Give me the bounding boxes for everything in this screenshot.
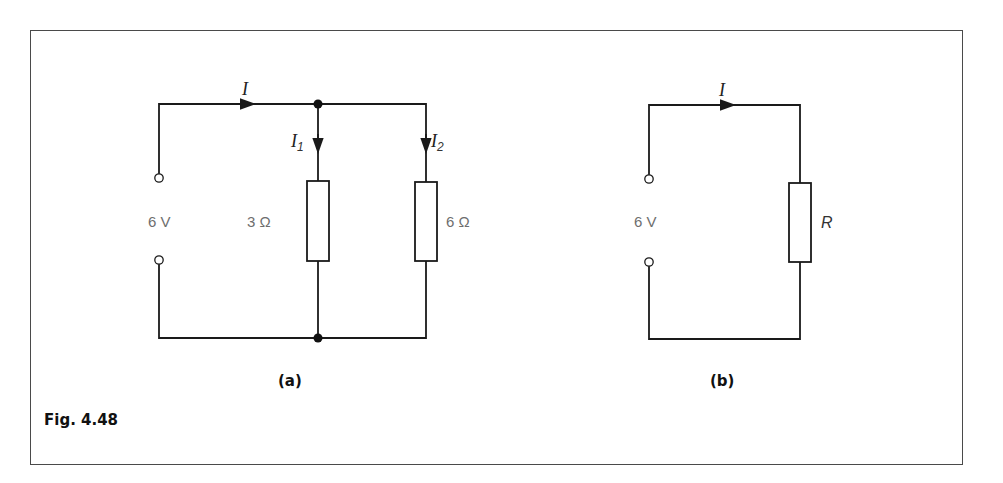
label-part-b: (b) [710, 372, 734, 390]
label-a-branch1-current: I1 [290, 131, 304, 154]
label-part-a: (a) [278, 372, 302, 390]
wire-a-top-right [318, 104, 426, 182]
circuit-b [645, 105, 811, 339]
figure-caption: Fig. 4.48 [44, 411, 118, 429]
wire-b-bottom [649, 262, 800, 339]
resistor-3-ohm [307, 181, 329, 261]
terminal-b-positive [645, 175, 653, 183]
wire-a-branch2-bottom [159, 261, 426, 338]
label-a-resistor1-value: 3 Ω [247, 213, 271, 230]
junction-a-bottom [314, 334, 323, 343]
resistor-6-ohm [415, 182, 437, 261]
terminal-a-positive [155, 174, 163, 182]
resistor-R [789, 183, 811, 262]
wire-b-top [649, 105, 800, 183]
circuit-diagram: I I1 I2 6 V 3 Ω 6 Ω (a) I 6 V R (b) Fig.… [0, 0, 1003, 483]
junction-a-top [314, 100, 323, 109]
label-a-total-current: I [241, 79, 249, 99]
terminal-a-negative [155, 256, 163, 264]
terminal-b-negative [645, 258, 653, 266]
label-a-branch2-current: I2 [430, 131, 444, 154]
label-b-source-voltage: 6 V [634, 213, 657, 230]
label-b-current: I [718, 80, 726, 100]
label-a-resistor2-value: 6 Ω [446, 213, 470, 230]
label-a-source-voltage: 6 V [148, 213, 171, 230]
label-b-resistance: R [821, 214, 833, 231]
